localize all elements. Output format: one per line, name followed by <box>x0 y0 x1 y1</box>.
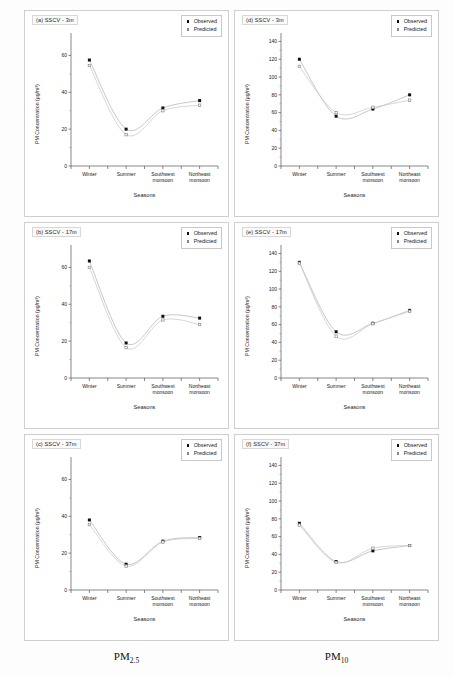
data-point-observed <box>408 93 411 96</box>
series-curve-predicted <box>299 263 409 339</box>
data-point-observed <box>161 106 164 109</box>
series-curve-observed <box>299 262 409 335</box>
data-point-observed <box>125 128 128 131</box>
data-point-observed <box>88 518 91 521</box>
chart-panel-c: (c) SSCV - 37mObservedPredicted0204060Wi… <box>24 434 229 641</box>
series-curve-observed <box>89 261 199 345</box>
series-curve-predicted <box>299 525 409 563</box>
data-point-predicted <box>88 266 90 268</box>
series-curve-observed <box>299 59 409 119</box>
data-point-predicted <box>298 524 300 526</box>
data-point-observed <box>88 59 91 62</box>
x-axis-title: Seasons <box>281 616 428 622</box>
series-curve-observed <box>299 523 409 562</box>
data-point-predicted <box>298 262 300 264</box>
data-point-predicted <box>408 310 410 312</box>
data-point-predicted <box>88 523 90 525</box>
chart-panel-f: (f) SSCV - 37mObservedPredicted020406080… <box>234 434 439 641</box>
series-curve-observed <box>89 60 199 131</box>
series-curve-predicted <box>299 66 409 115</box>
data-point-predicted <box>162 110 164 112</box>
y-axis-title: PM Concentration (µg/m³) <box>244 508 250 568</box>
caption-pm25-base: PM <box>114 650 130 662</box>
caption-pm25: PM2.5 <box>24 650 229 665</box>
chart-panel-b: (b) SSCV - 17mObservedPredicted0204060Wi… <box>24 222 229 429</box>
data-point-predicted <box>125 565 127 567</box>
data-point-predicted <box>408 99 410 101</box>
y-axis-title: PM Concentration (µg/m³) <box>34 508 40 568</box>
data-point-predicted <box>298 65 300 67</box>
data-point-predicted <box>335 561 337 563</box>
data-point-observed <box>298 58 301 61</box>
caption-pm10-base: PM <box>325 650 341 662</box>
data-point-predicted <box>372 323 374 325</box>
y-axis-title: PM Concentration (µg/m³) <box>244 84 250 144</box>
data-point-predicted <box>372 106 374 108</box>
series-curve-predicted <box>89 525 199 567</box>
data-point-predicted <box>198 104 200 106</box>
plot-area-e <box>235 223 440 430</box>
caption-pm25-sub: 2.5 <box>130 656 139 665</box>
data-point-observed <box>198 99 201 102</box>
data-point-predicted <box>372 547 374 549</box>
plot-area-a <box>25 11 230 218</box>
data-point-predicted <box>408 544 410 546</box>
chart-panel-e: (e) SSCV - 17mObservedPredicted020406080… <box>234 222 439 429</box>
data-point-observed <box>125 341 128 344</box>
data-point-predicted <box>198 323 200 325</box>
x-axis-title: Seasons <box>71 404 218 410</box>
series-curve-predicted <box>89 66 199 136</box>
x-axis-title: Seasons <box>281 404 428 410</box>
data-point-predicted <box>198 537 200 539</box>
caption-pm10: PM10 <box>234 650 439 665</box>
data-point-observed <box>335 115 338 118</box>
y-axis-title: PM Concentration (µg/m³) <box>34 84 40 144</box>
plot-area-c <box>25 435 230 642</box>
x-axis-title: Seasons <box>71 616 218 622</box>
data-point-predicted <box>125 346 127 348</box>
x-axis-title: Seasons <box>281 192 428 198</box>
data-point-predicted <box>88 64 90 66</box>
data-point-observed <box>161 315 164 318</box>
data-point-predicted <box>125 133 127 135</box>
caption-pm10-sub: 10 <box>341 656 349 665</box>
data-point-observed <box>198 317 201 320</box>
data-point-predicted <box>162 541 164 543</box>
data-point-predicted <box>335 335 337 337</box>
x-axis-title: Seasons <box>71 192 218 198</box>
y-axis-title: PM Concentration (µg/m³) <box>244 296 250 356</box>
y-axis-title: PM Concentration (µg/m³) <box>34 296 40 356</box>
data-point-observed <box>335 330 338 333</box>
data-point-predicted <box>162 319 164 321</box>
plot-area-b <box>25 223 230 430</box>
plot-area-f <box>235 435 440 642</box>
data-point-observed <box>371 549 374 552</box>
chart-panel-a: (a) SSCV - 3mObservedPredicted0204060Win… <box>24 10 229 217</box>
plot-area-d <box>235 11 440 218</box>
figure-page: (a) SSCV - 3mObservedPredicted0204060Win… <box>0 0 454 677</box>
data-point-predicted <box>335 111 337 113</box>
chart-panel-d: (d) SSCV - 3mObservedPredicted0204060801… <box>234 10 439 217</box>
series-curve-predicted <box>89 267 199 349</box>
series-curve-observed <box>89 520 199 565</box>
data-point-observed <box>88 259 91 262</box>
